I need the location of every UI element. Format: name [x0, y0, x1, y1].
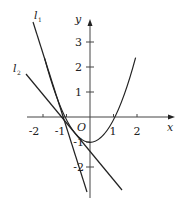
coordinate-plane: y x O -2 -1 1 2 3 2 1 -1 -2 l 1 l 2 — [0, 0, 183, 204]
y-axis-arrow-icon — [88, 19, 93, 26]
line-l2-subscript: 2 — [17, 69, 21, 76]
y-axis-label: y — [74, 13, 82, 26]
x-tick-label-2: 2 — [134, 125, 141, 138]
y-tick-label-neg1: -1 — [73, 136, 84, 149]
graph-figure: y x O -2 -1 1 2 3 2 1 -1 -2 l 1 l 2 — [0, 0, 183, 204]
x-tick-label-1: 1 — [110, 125, 117, 138]
x-axis-label: x — [167, 121, 174, 134]
y-tick-label-3: 3 — [75, 36, 82, 49]
line-l1-subscript: 1 — [38, 16, 42, 23]
x-tick-label-neg1: -1 — [55, 125, 66, 138]
x-axis-arrow-icon — [168, 115, 175, 120]
y-tick-label-1: 1 — [75, 86, 82, 99]
origin-label: O — [77, 121, 86, 134]
y-tick-label-2: 2 — [75, 61, 82, 74]
y-tick-label-neg2: -2 — [73, 161, 84, 174]
x-tick-label-neg2: -2 — [29, 125, 40, 138]
